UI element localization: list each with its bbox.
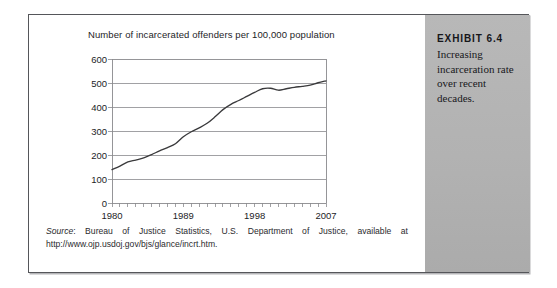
chart-title: Number of incarcerated offenders per 100… bbox=[88, 29, 335, 40]
exhibit-heading: EXHIBIT 6.4 bbox=[437, 33, 521, 44]
x-tick-label: 2007 bbox=[315, 210, 336, 221]
y-tick-label: 0 bbox=[102, 198, 107, 209]
y-tick-label: 600 bbox=[91, 54, 107, 65]
line-chart-svg bbox=[112, 59, 326, 203]
caption-inner: EXHIBIT 6.4 Increasing incarceration rat… bbox=[437, 33, 521, 106]
y-tick-label: 100 bbox=[91, 174, 107, 185]
exhibit-frame: Number of incarcerated offenders per 100… bbox=[28, 14, 529, 273]
data-series-line bbox=[112, 81, 326, 170]
x-tick-label: 1998 bbox=[244, 210, 265, 221]
exhibit-figure: Number of incarcerated offenders per 100… bbox=[0, 0, 557, 288]
y-tick-label: 200 bbox=[91, 150, 107, 161]
y-tick-label: 400 bbox=[91, 102, 107, 113]
y-tick-label: 300 bbox=[91, 126, 107, 137]
y-tick-label: 500 bbox=[91, 78, 107, 89]
chart-region: Number of incarcerated offenders per 100… bbox=[29, 15, 425, 272]
source-label: Source bbox=[46, 226, 73, 236]
exhibit-description: Increasing incarceration rate over recen… bbox=[437, 47, 521, 106]
source-note: Source: Bureau of Justice Statistics, U.… bbox=[46, 225, 408, 252]
chart-plot-area: 6005004003002001000 1980198919982007 bbox=[112, 59, 326, 203]
x-tick-label: 1989 bbox=[173, 210, 194, 221]
x-tick-label: 1980 bbox=[101, 210, 122, 221]
source-text: : Bureau of Justice Statistics, U.S. Dep… bbox=[46, 226, 408, 249]
plot-box bbox=[112, 59, 326, 203]
exhibit-caption-panel: EXHIBIT 6.4 Increasing incarceration rat… bbox=[425, 15, 530, 272]
